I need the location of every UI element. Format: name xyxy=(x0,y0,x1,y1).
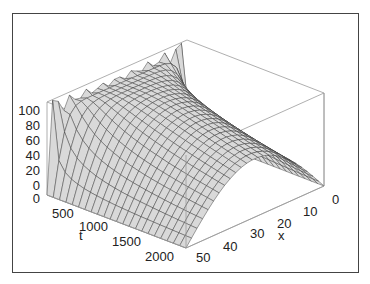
x-tick-40: 40 xyxy=(223,239,237,254)
t-tick-2000: 2000 xyxy=(145,249,174,264)
z-axis-ticks: 100 80 60 40 20 0 xyxy=(18,103,40,193)
surface-plot: 100 80 60 40 20 0 0 500 1000 1500 2000 t… xyxy=(0,0,370,284)
z-tick-100: 100 xyxy=(18,103,40,118)
t-tick-0: 0 xyxy=(33,191,40,206)
x-axis-ticks: 0 10 20 30 40 50 x xyxy=(196,192,339,265)
x-tick-0: 0 xyxy=(332,192,339,207)
x-axis-label: x xyxy=(278,228,285,243)
t-tick-1000: 1000 xyxy=(79,219,108,234)
z-tick-80: 80 xyxy=(26,118,40,133)
t-axis-label: t xyxy=(79,228,83,243)
t-tick-500: 500 xyxy=(52,206,74,221)
z-tick-20: 20 xyxy=(26,163,40,178)
x-tick-30: 30 xyxy=(250,226,264,241)
x-tick-10: 10 xyxy=(303,204,317,219)
z-tick-40: 40 xyxy=(26,148,40,163)
box-edge xyxy=(187,40,324,93)
surface-cell xyxy=(159,53,171,64)
t-tick-1500: 1500 xyxy=(112,234,141,249)
z-tick-60: 60 xyxy=(26,133,40,148)
x-tick-50: 50 xyxy=(196,250,210,265)
